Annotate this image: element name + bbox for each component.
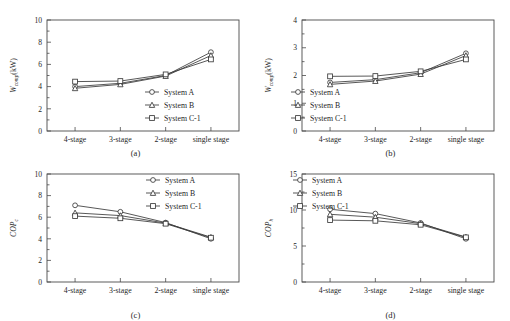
legend-item-system-b: System B: [145, 101, 194, 110]
y-axis-label: Wcomp(kW): [9, 58, 19, 93]
chart-c: 02468104-stage3-stage2-stagesingle stage…: [0, 160, 255, 321]
data-point: [163, 72, 168, 77]
x-tick-label: 4-stage: [64, 286, 87, 295]
y-tick-label: 0: [293, 127, 297, 136]
data-point: [373, 218, 378, 223]
legend-label: System A: [312, 176, 342, 185]
series-line-system-b: [75, 56, 211, 89]
data-point: [418, 69, 423, 74]
data-point: [209, 235, 214, 240]
y-tick-label: 4: [38, 235, 42, 244]
legend-label: System A: [164, 88, 194, 97]
legend-marker: [298, 204, 303, 209]
x-tick-label: single stage: [448, 135, 485, 144]
y-tick-label: 10: [34, 16, 42, 25]
legend-item-system-b: System B: [291, 101, 340, 110]
chart-b: 012344-stage3-stage2-stagesingle stageWc…: [255, 0, 510, 160]
legend-label: System A: [165, 176, 195, 185]
panel-caption-c: (c): [8, 310, 263, 320]
legend-item-system-b: System B: [146, 189, 195, 198]
data-point: [373, 74, 378, 79]
panel-c: 02468104-stage3-stage2-stagesingle stage…: [0, 160, 255, 321]
legend-marker: [150, 116, 155, 121]
data-point: [118, 216, 123, 221]
legend-label: System C-1: [165, 202, 202, 211]
legend-label: System C-1: [164, 114, 201, 123]
x-tick-label: single stage: [193, 135, 230, 144]
legend-item-system-b: System B: [293, 189, 342, 198]
y-tick-label: 0: [38, 278, 42, 287]
legend-label: System C-1: [310, 114, 347, 123]
figure-grid: 02468104-stage3-stage2-stagesingle stage…: [0, 0, 510, 321]
chart-d: 0510154-stage3-stage2-stagesingle stageC…: [255, 160, 510, 321]
plot-frame: [47, 20, 239, 131]
panel-caption-b: (b): [263, 148, 510, 158]
y-tick-label: 2: [293, 71, 297, 80]
x-tick-label: 2-stage: [154, 135, 177, 144]
x-tick-label: 3-stage: [364, 286, 387, 295]
legend-marker: [296, 90, 301, 95]
legend-label: System C-1: [312, 202, 349, 211]
legend-marker: [151, 178, 156, 183]
legend-item-system-c-1: System C-1: [145, 114, 201, 123]
legend-label: System B: [164, 101, 194, 110]
x-tick-label: 2-stage: [154, 286, 177, 295]
legend-marker: [298, 178, 303, 183]
series-line-system-b: [330, 214, 466, 237]
data-point: [464, 235, 469, 240]
data-point: [73, 203, 78, 208]
series-line-system-b: [75, 213, 211, 237]
x-tick-label: 3-stage: [364, 135, 387, 144]
y-tick-label: 4: [38, 82, 42, 91]
data-point: [418, 222, 423, 227]
plot-frame: [47, 174, 239, 282]
legend-item-system-c-1: System C-1: [293, 202, 349, 211]
legend-marker: [150, 90, 155, 95]
data-point: [464, 57, 469, 62]
legend-label: System B: [310, 101, 340, 110]
data-point: [328, 74, 333, 79]
x-tick-label: 3-stage: [109, 135, 132, 144]
legend-item-system-a: System A: [145, 88, 194, 97]
series-line-system-c-1: [330, 220, 466, 237]
data-point: [163, 221, 168, 226]
legend-label: System B: [312, 189, 342, 198]
y-tick-label: 8: [38, 191, 42, 200]
legend-item-system-a: System A: [291, 88, 340, 97]
y-tick-label: 10: [34, 170, 42, 179]
series-line-system-a: [330, 209, 466, 239]
y-tick-label: 6: [38, 213, 42, 222]
legend-item-system-c-1: System C-1: [146, 202, 202, 211]
data-point: [73, 214, 78, 219]
y-tick-label: 8: [38, 38, 42, 47]
y-axis-label: COPc: [9, 218, 19, 237]
x-tick-label: 2-stage: [409, 286, 432, 295]
x-tick-label: 4-stage: [319, 135, 342, 144]
y-tick-label: 0: [293, 278, 297, 287]
y-tick-label: 2: [38, 256, 42, 265]
legend-item-system-a: System A: [293, 176, 342, 185]
x-tick-label: 4-stage: [319, 286, 342, 295]
svg-text:COPc: COPc: [9, 218, 19, 237]
y-tick-label: 3: [293, 43, 297, 52]
y-axis-label: COPh: [264, 219, 274, 238]
panel-caption-a: (a): [8, 148, 263, 158]
x-tick-label: single stage: [193, 286, 230, 295]
svg-text:Wcomp(kW): Wcomp(kW): [264, 58, 274, 93]
y-tick-label: 5: [293, 242, 297, 251]
y-axis-label: Wcomp(kW): [264, 58, 274, 93]
svg-text:Wcomp(kW): Wcomp(kW): [9, 58, 19, 93]
series-line-system-b: [330, 56, 466, 85]
svg-text:COPh: COPh: [264, 219, 274, 238]
y-tick-label: 2: [38, 105, 42, 114]
data-point: [209, 57, 214, 62]
y-tick-label: 15: [289, 170, 297, 179]
x-tick-label: 2-stage: [409, 135, 432, 144]
series-line-system-a: [330, 53, 466, 82]
panel-a: 02468104-stage3-stage2-stagesingle stage…: [0, 0, 255, 160]
y-tick-label: 10: [289, 206, 297, 215]
data-point: [73, 79, 78, 84]
chart-a: 02468104-stage3-stage2-stagesingle stage…: [0, 0, 255, 160]
panel-b: 012344-stage3-stage2-stagesingle stageWc…: [255, 0, 510, 160]
legend-marker: [296, 116, 301, 121]
